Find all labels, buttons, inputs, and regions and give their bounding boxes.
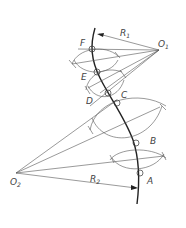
label-o1: O1 (158, 39, 169, 50)
label-a: A (146, 176, 153, 186)
o2-rays (16, 100, 164, 173)
r2-radius (16, 173, 138, 190)
label-r2: R2 (90, 174, 100, 185)
construction-arcs-cb (90, 98, 166, 138)
reverse-curve-diagram: F E D C B A O1 O2 R1 R2 (0, 0, 186, 228)
label-r1: R1 (120, 28, 130, 39)
label-b: B (150, 136, 156, 146)
label-e: E (81, 72, 87, 82)
label-c: C (121, 90, 128, 100)
label-o2: O2 (10, 177, 21, 188)
point-markers (89, 46, 143, 176)
label-f: F (80, 38, 86, 48)
label-d: D (86, 96, 93, 106)
